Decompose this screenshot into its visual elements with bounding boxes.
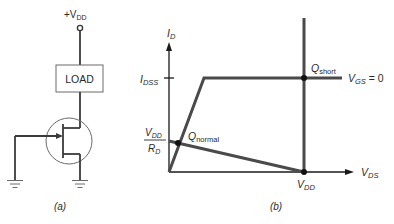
graph-b: ID IDSS VDD RD Qnormal Qshort VGS = 0 VD… (140, 18, 384, 212)
svg-text:RD: RD (148, 143, 160, 155)
x-axis-label: VDS (361, 166, 378, 180)
ground-icon (7, 181, 23, 188)
vgs-label: VGS = 0 (348, 72, 384, 86)
q-short-point (301, 75, 307, 81)
figure: +VDD LOAD (a (0, 0, 394, 224)
ground-icon (72, 181, 88, 188)
vdd-point (301, 169, 307, 175)
circuit-a: +VDD LOAD (a (7, 9, 103, 212)
x-axis-arrow-icon (345, 169, 354, 175)
svg-text:VDD: VDD (145, 127, 162, 139)
q-normal-point (175, 140, 181, 146)
vdd-tick-label: VDD (297, 178, 315, 192)
y-axis-label: ID (167, 27, 176, 41)
q-short-label: Qshort (311, 62, 337, 76)
idss-label: IDSS (140, 73, 158, 87)
load-label: LOAD (65, 73, 94, 85)
q-normal-label: Qnormal (188, 130, 219, 144)
y-axis-arrow-icon (166, 42, 172, 51)
supply-terminal-icon (77, 25, 82, 30)
load-line-normal (169, 141, 304, 172)
caption-b: (b) (270, 201, 282, 212)
supply-label: +VDD (64, 9, 87, 21)
caption-a: (a) (54, 201, 66, 212)
vdd-over-rd-label: VDD RD (144, 127, 166, 155)
drain-curve (169, 78, 342, 172)
